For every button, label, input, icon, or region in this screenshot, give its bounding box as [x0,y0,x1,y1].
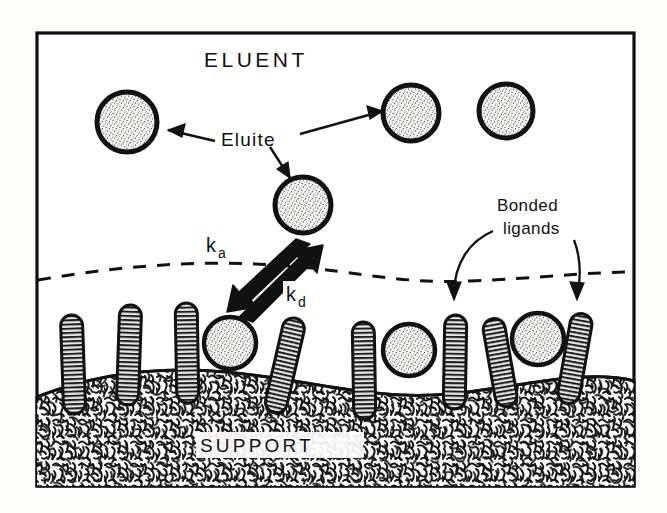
eluent-label: ELUENT [204,48,308,71]
bonded-ligand [175,303,199,403]
k-desorption-label: k d [283,281,319,310]
support-label: SUPPORT [200,435,314,456]
bonded-ligands-label-line1: Bonded [497,196,558,215]
eluite-particle [204,317,256,369]
k-desorption-base: k [286,283,297,305]
k-desorption-subscript: d [298,294,306,310]
support-label-group: SUPPORT [196,432,363,458]
eluite-label: Eluite [221,129,276,150]
eluite-particle [97,92,157,152]
bonded-ligand [443,315,467,409]
k-adsorption-subscript: a [218,245,226,261]
k-adsorption-base: k [206,234,217,256]
bonded-ligand [352,322,376,419]
k-adsorption-label: k a [203,232,239,261]
bonded-ligands-label-line2: ligands [503,219,560,238]
eluite-particle [479,84,533,138]
figure-root: SUPPORT [0,0,667,513]
eluite-particle [512,313,564,365]
eluite-particle [383,324,435,376]
eluite-particle [383,85,439,141]
bonded-ligand [60,315,85,415]
eluite-particle [275,177,331,233]
chromatography-schematic: SUPPORT [0,0,667,513]
bonded-ligand [116,305,141,406]
